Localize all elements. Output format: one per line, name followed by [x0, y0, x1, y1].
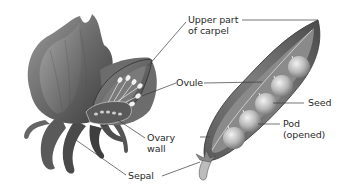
leader-sepal-flower [76, 140, 126, 175]
label-ovule-line1: Ovule [176, 77, 203, 88]
leader-upper-carpel-flower [148, 22, 186, 66]
label-ovule: Ovule [176, 77, 203, 88]
opened-pea-pod [196, 20, 320, 180]
label-sepal-line1: Sepal [128, 170, 154, 181]
seed-2 [239, 110, 261, 132]
seed-1 [223, 127, 245, 149]
label-pod-line1: Pod [283, 118, 325, 129]
diagram-stage: Upper part of carpel Ovule Seed Pod (ope… [0, 0, 350, 190]
label-seed-line1: Seed [308, 97, 331, 108]
label-pod-line2: (opened) [283, 129, 325, 140]
label-ovary-wall-line2: wall [147, 143, 175, 154]
label-sepal: Sepal [128, 170, 154, 181]
label-pod-opened: Pod (opened) [283, 118, 325, 140]
label-seed: Seed [308, 97, 331, 108]
label-upper-part-of-carpel: Upper part of carpel [188, 14, 238, 36]
label-ovary-wall-line1: Ovary [147, 132, 175, 143]
leader-sepal-pod [162, 162, 200, 176]
seed-5 [288, 56, 310, 78]
label-ovary-wall: Ovary wall [147, 132, 175, 154]
seed-3 [255, 93, 277, 115]
label-upper-carpel-line1: Upper part [188, 14, 238, 25]
sepal-2 [63, 120, 86, 174]
seed-4 [271, 75, 293, 97]
diagram-illustration [0, 0, 350, 190]
sepal-3 [89, 125, 104, 159]
label-upper-carpel-line2: of carpel [188, 25, 238, 36]
